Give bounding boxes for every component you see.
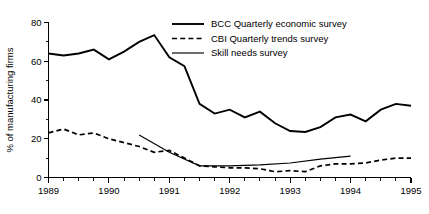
y-tick-label: 80 — [31, 17, 42, 28]
legend-label: BCC Quarterly economic survey — [211, 18, 347, 29]
y-tick-label: 0 — [36, 172, 41, 183]
series-line-cbi — [49, 129, 412, 172]
y-tick-label: 40 — [31, 94, 42, 105]
x-tick-label: 1991 — [159, 185, 180, 196]
y-axis: 020406080 — [31, 17, 49, 183]
chart-legend: BCC Quarterly economic surveyCBI Quarter… — [172, 18, 347, 58]
y-tick-label: 20 — [31, 133, 42, 144]
legend-label: CBI Quarterly trends survey — [211, 33, 328, 44]
x-tick-label: 1995 — [400, 185, 421, 196]
x-tick-label: 1990 — [98, 185, 119, 196]
legend-label: Skill needs survey — [211, 47, 288, 58]
y-axis-title: % of manufacturing firms — [4, 47, 15, 152]
x-axis: 1989199019911992199319941995 — [38, 178, 422, 196]
x-tick-label: 1993 — [280, 185, 301, 196]
x-tick-label: 1994 — [340, 185, 361, 196]
chart-container: 020406080 1989199019911992199319941995 B… — [0, 0, 429, 214]
x-tick-label: 1992 — [219, 185, 240, 196]
line-chart: 020406080 1989199019911992199319941995 B… — [0, 0, 429, 214]
x-tick-label: 1989 — [38, 185, 59, 196]
y-tick-label: 60 — [31, 56, 42, 67]
